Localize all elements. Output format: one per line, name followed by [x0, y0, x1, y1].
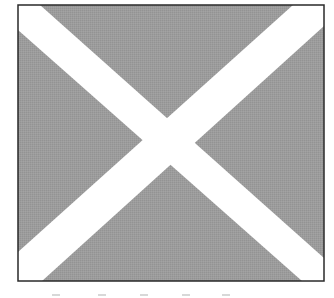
flag-figure — [0, 0, 334, 298]
saltire-flag-image — [0, 0, 334, 298]
cropped-caption — [40, 292, 240, 298]
